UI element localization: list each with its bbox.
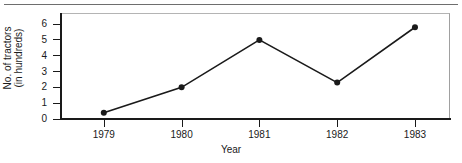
line-chart-figure: 0123456 19791980198119821983 No. of trac… [0,0,462,163]
data-series-layer [0,0,462,163]
y-axis-title: No. of tractors (in hundreds) [2,4,24,112]
data-point-1982 [334,80,340,86]
data-point-1983 [412,24,418,30]
x-axis-title: Year [0,144,462,155]
data-point-1979 [101,110,107,116]
data-point-1980 [179,84,185,90]
series-markers [101,24,418,115]
y-axis-title-line-1: No. of tractors [2,4,13,112]
y-axis-title-line-2: (in hundreds) [13,4,24,112]
data-point-1981 [256,37,262,43]
